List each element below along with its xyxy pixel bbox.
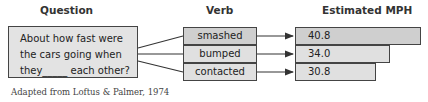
verb-box-smashed: smashed xyxy=(183,27,257,45)
mph-bar-smashed: 40.8 xyxy=(295,27,421,45)
connector-question-smashed xyxy=(138,36,183,48)
verb-box-bumped: bumped xyxy=(183,45,257,63)
question-line: the cars going when xyxy=(20,47,137,63)
connector-question-contacted xyxy=(138,61,183,72)
question-line: About how fast were xyxy=(20,31,137,47)
question-line: they_____ each other? xyxy=(20,63,137,79)
mph-bar-bumped: 34.0 xyxy=(295,45,390,63)
mph-bar-contacted: 30.8 xyxy=(295,63,376,81)
question-box: About how fast were the cars going when … xyxy=(8,26,138,78)
source-caption: Adapted from Loftus & Palmer, 1974 xyxy=(11,87,169,97)
verb-box-contacted: contacted xyxy=(183,63,257,81)
